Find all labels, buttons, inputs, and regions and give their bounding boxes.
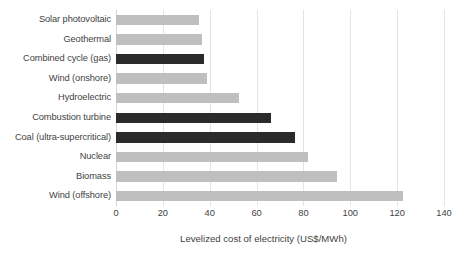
- bar-wind-onshore: [116, 73, 207, 84]
- bar-combustion-turbine: [116, 113, 271, 124]
- bar-row: [116, 69, 444, 89]
- gridline-140: [444, 10, 445, 206]
- bar-combined-cycle-gas: [116, 54, 204, 65]
- bar-coal-ultra-supercritical: [116, 132, 295, 143]
- bar-row: [116, 128, 444, 148]
- category-label: Wind (offshore): [0, 186, 111, 206]
- bar-wind-offshore: [116, 191, 403, 202]
- x-axis-title: Levelized cost of electricity (US$/MWh): [0, 233, 465, 244]
- category-label: Coal (ultra-supercritical): [0, 128, 111, 148]
- x-tick-label-0: 0: [113, 208, 118, 218]
- bar-biomass: [116, 171, 337, 182]
- x-tick-label-40: 40: [205, 208, 215, 218]
- bar-hydroelectric: [116, 93, 239, 104]
- bar-row: [116, 147, 444, 167]
- bar-row: [116, 88, 444, 108]
- bar-row: [116, 30, 444, 50]
- x-tick-label-140: 140: [436, 208, 452, 218]
- category-label: Solar photovoltaic: [0, 10, 111, 30]
- plot-area: [116, 10, 444, 206]
- levelized-cost-bar-chart: Solar photovoltaicGeothermalCombined cyc…: [0, 0, 465, 264]
- bar-row: [116, 49, 444, 69]
- category-axis-labels: Solar photovoltaicGeothermalCombined cyc…: [0, 10, 111, 206]
- category-label: Biomass: [0, 167, 111, 187]
- x-tick-label-80: 80: [298, 208, 308, 218]
- category-label: Nuclear: [0, 147, 111, 167]
- bar-geothermal: [116, 34, 202, 45]
- x-tick-label-120: 120: [389, 208, 405, 218]
- category-label: Combustion turbine: [0, 108, 111, 128]
- category-label: Wind (onshore): [0, 69, 111, 89]
- x-axis-title-text: Levelized cost of electricity (US$/MWh): [118, 233, 347, 244]
- bars-layer: [116, 10, 444, 206]
- bar-row: [116, 186, 444, 206]
- bar-row: [116, 167, 444, 187]
- x-tick-label-60: 60: [251, 208, 261, 218]
- bar-row: [116, 108, 444, 128]
- category-label: Combined cycle (gas): [0, 49, 111, 69]
- category-label: Hydroelectric: [0, 88, 111, 108]
- x-tick-label-20: 20: [158, 208, 168, 218]
- category-label: Geothermal: [0, 30, 111, 50]
- x-tick-label-100: 100: [343, 208, 359, 218]
- x-axis-tick-labels: 020406080100120140: [116, 208, 444, 224]
- bar-solar-photovoltaic: [116, 15, 199, 26]
- bar-nuclear: [116, 152, 308, 163]
- bar-row: [116, 10, 444, 30]
